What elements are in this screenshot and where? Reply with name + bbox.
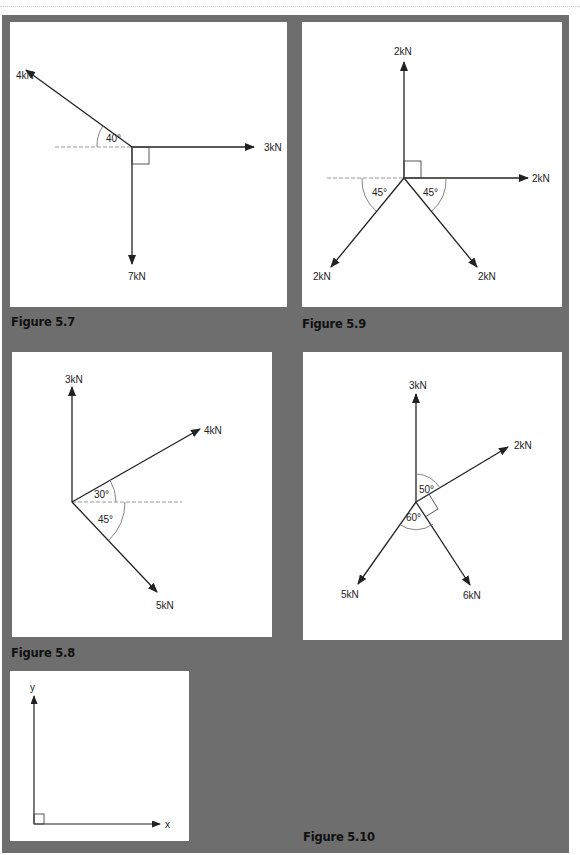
axes-panel: y x <box>10 671 189 841</box>
force-label: 2kN <box>478 271 496 282</box>
force-label: 2kN <box>532 173 550 184</box>
force-label: 3kN <box>409 380 427 391</box>
figure-5-8-caption: Figure 5.8 <box>11 646 75 660</box>
figure-sheet: 4kN 3kN 7kN 40° Figure 5.7 2kN 2kN 2 <box>2 15 569 853</box>
top-dotted-rule <box>0 6 580 7</box>
axis-label-x: x <box>165 819 170 830</box>
angle-label: 30° <box>94 489 109 500</box>
force-label: 7kN <box>128 271 146 282</box>
figure-5-10-diagram: 3kN 2kN 5kN 6kN 50° 60° <box>303 352 562 640</box>
figure-5-9-diagram: 2kN 2kN 2kN 2kN 45° 45° <box>302 22 562 307</box>
angle-label: 45° <box>372 187 387 198</box>
angle-label: 60° <box>406 512 421 523</box>
figure-5-9-panel: 2kN 2kN 2kN 2kN 45° 45° <box>302 22 562 307</box>
figure-5-8-panel: 3kN 4kN 5kN 30° 45° <box>12 352 272 637</box>
figure-5-7-caption: Figure 5.7 <box>11 315 75 329</box>
force-label: 3kN <box>65 374 83 385</box>
force-label: 4kN <box>204 425 222 436</box>
force-label: 2kN <box>514 440 532 451</box>
figure-5-7-diagram: 4kN 3kN 7kN 40° <box>10 22 287 307</box>
force-label: 3kN <box>264 142 282 153</box>
angle-label: 40° <box>106 133 121 144</box>
figure-5-10-panel: 3kN 2kN 5kN 6kN 50° 60° <box>303 352 562 640</box>
force-label: 6kN <box>463 590 481 601</box>
force-label: 2kN <box>313 271 331 282</box>
figure-5-10-caption: Figure 5.10 <box>303 830 375 844</box>
angle-label: 45° <box>98 514 113 525</box>
force-label: 5kN <box>341 589 359 600</box>
figure-5-8-diagram: 3kN 4kN 5kN 30° 45° <box>12 352 272 637</box>
angle-label: 50° <box>419 484 434 495</box>
force-label: 4kN <box>16 70 34 81</box>
figure-5-9-caption: Figure 5.9 <box>302 317 366 331</box>
figure-5-7-panel: 4kN 3kN 7kN 40° <box>10 22 287 307</box>
axis-label-y: y <box>30 682 35 693</box>
force-label: 2kN <box>394 46 412 57</box>
force-label: 5kN <box>156 600 174 611</box>
axes-diagram: y x <box>10 671 189 841</box>
angle-label: 45° <box>423 187 438 198</box>
